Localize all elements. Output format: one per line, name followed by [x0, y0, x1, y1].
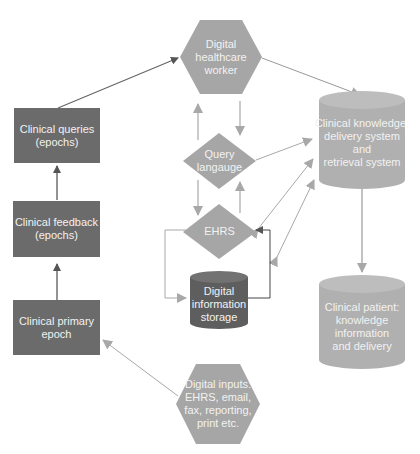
arrow-inputs-to-primary	[103, 340, 178, 396]
arrow-ehrs-knowledge	[258, 159, 313, 229]
digital-storage-label: Digital information storage	[188, 281, 250, 327]
arrow-worker-to-knowledge	[262, 58, 360, 95]
clinical-patient-label: Clinical patient: knowledge information …	[312, 294, 412, 360]
clinical-queries-label: Clinical queries (epochs)	[14, 108, 100, 163]
ehrs-label: EHRS	[183, 204, 256, 259]
clinical-primary-label: Clinical primary epoch	[13, 300, 100, 355]
arrow-queries-to-worker	[58, 58, 178, 108]
clinical-knowledge-label: Clinical knowledge; delivery system and …	[312, 110, 412, 176]
arrow-query-to-knowledge	[256, 139, 312, 160]
digital-worker-label: Digital healthcare worker	[180, 20, 262, 94]
digital-inputs-label: Digital inputs: EHRS, email, fax, report…	[176, 370, 260, 438]
arrow-knowledge-storage	[277, 180, 314, 257]
query-language-label: Query langauge	[183, 133, 256, 189]
clinical-feedback-label: Clinical feedback (epochs)	[13, 201, 100, 257]
